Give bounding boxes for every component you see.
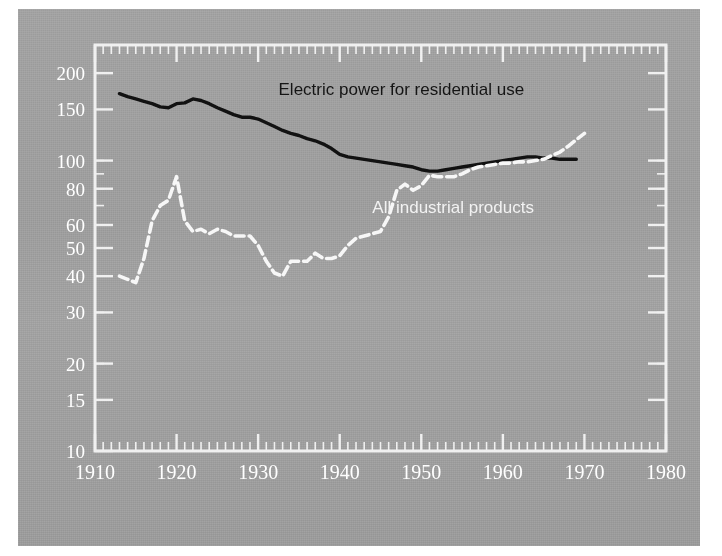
industrial-products-label: All industrial products — [372, 198, 534, 217]
x-tick-label: 1970 — [564, 461, 604, 483]
x-tick-label: 1920 — [157, 461, 197, 483]
y-tick-label: 150 — [57, 99, 86, 120]
y-tick-label: 40 — [66, 266, 85, 287]
y-tick-label: 15 — [66, 390, 85, 411]
x-axis: 19101920193019401950196019701980 — [75, 45, 686, 483]
plot-frame — [95, 45, 666, 451]
electric-power-label: Electric power for residential use — [279, 80, 525, 99]
chart-plate: 1015203040506080100150200 19101920193019… — [18, 9, 700, 546]
y-tick-label: 60 — [66, 215, 85, 236]
y-tick-label: 20 — [66, 354, 85, 375]
x-tick-label: 1980 — [646, 461, 686, 483]
series-layer — [119, 94, 584, 283]
x-tick-label: 1930 — [238, 461, 278, 483]
y-tick-label: 200 — [57, 63, 86, 84]
y-tick-label: 30 — [66, 302, 85, 323]
plot-border — [95, 45, 666, 451]
x-tick-label: 1950 — [401, 461, 441, 483]
x-tick-label: 1960 — [483, 461, 523, 483]
figure-root: 1015203040506080100150200 19101920193019… — [0, 0, 722, 556]
y-tick-label: 50 — [66, 238, 85, 259]
price-index-chart: 1015203040506080100150200 19101920193019… — [18, 9, 700, 546]
x-tick-label: 1910 — [75, 461, 115, 483]
y-axis: 1015203040506080100150200 — [57, 45, 667, 462]
series-line — [119, 94, 576, 171]
y-tick-label: 100 — [57, 151, 86, 172]
annotation-layer: Electric power for residential useAll in… — [279, 80, 534, 217]
x-tick-label: 1940 — [320, 461, 360, 483]
y-tick-label: 80 — [66, 179, 85, 200]
y-tick-label: 10 — [66, 441, 85, 462]
